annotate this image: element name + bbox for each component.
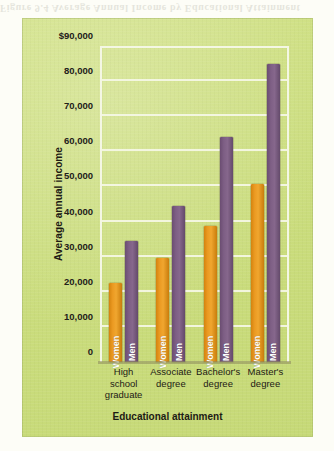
bar-men-high-school-graduate[interactable]: Men	[125, 241, 138, 362]
bar-men-master-s-degree[interactable]: Men	[267, 64, 280, 362]
bar-men-associate-degree[interactable]: Men	[172, 206, 185, 362]
bar-women-high-school-graduate[interactable]: Women	[109, 283, 122, 362]
bar-group: WomenMen	[109, 46, 138, 362]
bar-series-label: Men	[127, 343, 137, 361]
category-label-4: Master'sdegree	[242, 366, 288, 401]
chart-figure-panel: Average annual income $90,00080,00070,00…	[22, 18, 313, 437]
bar-series-label: Men	[221, 343, 231, 361]
y-axis-tick-label: 0	[88, 346, 93, 357]
category-label-3: Bachelor'sdegree	[195, 366, 241, 401]
bar-group: WomenMen	[251, 46, 280, 362]
y-axis-tick-label: 60,000	[64, 135, 93, 146]
bar-women-associate-degree[interactable]: Women	[156, 258, 169, 362]
bar-group: WomenMen	[204, 46, 233, 362]
y-axis-tick-label: 50,000	[64, 170, 93, 181]
y-axis-tick-label: 30,000	[64, 240, 93, 251]
bar-women-bachelor-s-degree[interactable]: Women	[204, 226, 217, 362]
y-axis-tick-label: 70,000	[64, 100, 93, 111]
bar-group: WomenMen	[156, 46, 185, 362]
category-label-1: Highschoolgraduate	[101, 366, 147, 401]
y-axis-tick-label: 40,000	[64, 205, 93, 216]
category-label-2: Associatedegree	[148, 366, 194, 401]
bar-women-master-s-degree[interactable]: Women	[251, 184, 264, 362]
bar-series-label: Men	[174, 343, 184, 361]
y-axis-tick-label: 20,000	[64, 275, 93, 286]
x-axis-title: Educational attainment	[22, 411, 313, 422]
y-axis-tick-label: 10,000	[64, 310, 93, 321]
bar-series-label: Men	[268, 343, 278, 361]
bar-groups: WomenMenWomenMenWomenMenWomenMen	[100, 46, 289, 362]
y-axis-tick-label: $90,000	[59, 30, 93, 41]
bar-men-bachelor-s-degree[interactable]: Men	[220, 137, 233, 362]
x-axis-baseline	[98, 361, 291, 364]
plot-area: $90,00080,00070,00060,00050,00040,00030,…	[100, 46, 289, 362]
y-axis-tick-label: 80,000	[64, 65, 93, 76]
page-bleed-through-text: Figure 9.4 Average Annual Income by Educ…	[0, 0, 334, 14]
y-axis-title: Average annual income	[53, 147, 64, 261]
x-axis-category-labels: HighschoolgraduateAssociatedegreeBachelo…	[100, 366, 289, 401]
